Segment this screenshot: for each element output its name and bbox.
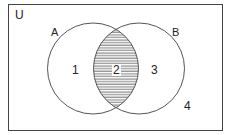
region-2-label: 2 — [112, 64, 121, 76]
universe-label: U — [15, 9, 24, 21]
region-1-label: 1 — [72, 64, 79, 76]
region-3-label: 3 — [151, 64, 158, 76]
region-4-label: 4 — [184, 100, 191, 112]
set-a-label: A — [51, 27, 58, 38]
set-b-label: B — [172, 27, 179, 38]
